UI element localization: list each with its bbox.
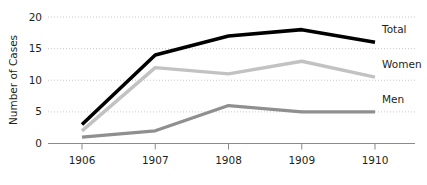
x-axis-tick-label: 1907: [142, 154, 169, 166]
x-axis-tick-label: 1908: [215, 154, 242, 166]
series-line-men: [82, 106, 375, 138]
chart-canvas: 05101520 19061907190819091910 TotalWomen…: [0, 0, 427, 185]
line-chart-figure: 05101520 19061907190819091910 TotalWomen…: [0, 0, 427, 185]
series-label-total: Total: [381, 23, 407, 35]
y-axis-tick-label: 20: [29, 11, 42, 23]
y-axis-tick-label: 15: [29, 42, 42, 54]
data-series-lines: [82, 30, 375, 138]
x-axis-tick-marks: [82, 144, 375, 150]
x-axis-tick-label: 1906: [69, 154, 96, 166]
x-axis-tick-label: 1910: [362, 154, 389, 166]
y-axis-tick-label: 5: [35, 105, 42, 117]
y-axis-tick-label: 0: [35, 137, 42, 149]
y-axis-tick-labels: 05101520: [29, 11, 42, 150]
y-axis-title-group: Number of Cases: [7, 35, 19, 125]
y-axis-tick-label: 10: [29, 74, 42, 86]
series-label-women: Women: [382, 58, 422, 70]
series-label-men: Men: [382, 93, 404, 105]
x-axis-tick-label: 1909: [288, 154, 315, 166]
x-axis-tick-labels: 19061907190819091910: [69, 154, 389, 166]
gridlines: [48, 17, 415, 112]
series-inline-labels: TotalWomenMen: [381, 23, 422, 105]
series-line-women: [82, 61, 375, 131]
y-axis-title: Number of Cases: [7, 35, 19, 125]
